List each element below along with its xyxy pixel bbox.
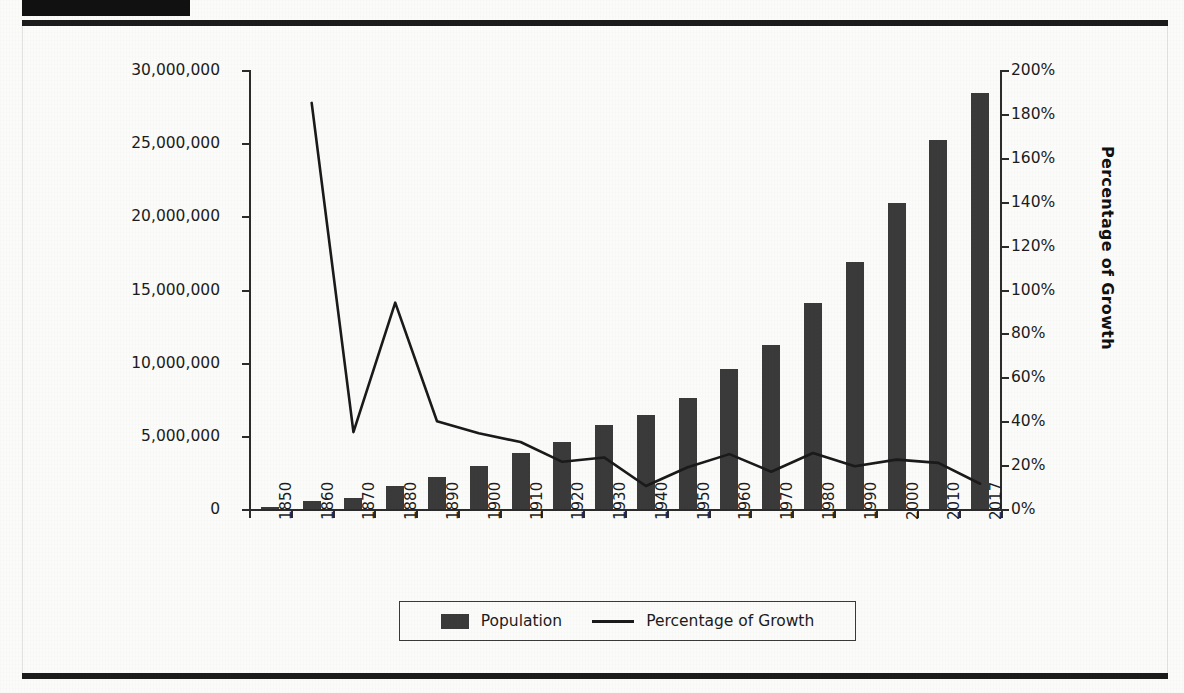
line-series-percentage-of-growth bbox=[249, 70, 1001, 509]
y-axis-left-tick bbox=[242, 363, 249, 365]
line-swatch-icon bbox=[592, 620, 634, 623]
y-axis-right-tick-label: 80% bbox=[1011, 324, 1045, 342]
y-axis-right-tick-label: 40% bbox=[1011, 412, 1045, 430]
y-axis-left-tick bbox=[242, 509, 249, 511]
y-axis-left-tick-label: 30,000,000 bbox=[131, 61, 220, 79]
rule-bottom bbox=[22, 673, 1168, 679]
y-axis-right-tick bbox=[1002, 202, 1009, 204]
y-axis-right-tick bbox=[1002, 246, 1009, 248]
y-axis-left-tick-label: 15,000,000 bbox=[131, 281, 220, 299]
y-axis-left-tick bbox=[242, 436, 249, 438]
y-axis-right-tick-label: 200% bbox=[1011, 61, 1055, 79]
y-axis-right-tick-label: 20% bbox=[1011, 456, 1045, 474]
y-axis-right-tick-label: 140% bbox=[1011, 193, 1055, 211]
legend-item-percentage-of-growth[interactable]: Percentage of Growth bbox=[592, 612, 814, 630]
y-axis-right-tick bbox=[1002, 114, 1009, 116]
y-axis-left-tick bbox=[242, 290, 249, 292]
y-axis-left-tick-label: 0 bbox=[210, 500, 220, 518]
y-axis-right-tick bbox=[1002, 333, 1009, 335]
legend-label-percentage-of-growth: Percentage of Growth bbox=[646, 612, 814, 630]
y-axis-right-tick-label: 60% bbox=[1011, 368, 1045, 386]
chart-legend: Population Percentage of Growth bbox=[399, 601, 856, 641]
page-title bbox=[200, 0, 960, 14]
legend-label-population: Population bbox=[481, 612, 562, 630]
y-axis-right-tick-label: 120% bbox=[1011, 237, 1055, 255]
chart-figure: 05,000,00010,000,00015,000,00020,000,000… bbox=[0, 26, 1184, 673]
y-axis-right-tick bbox=[1002, 377, 1009, 379]
y-axis-left-tick bbox=[242, 216, 249, 218]
y-axis-right-tick bbox=[1002, 465, 1009, 467]
bar-swatch-icon bbox=[441, 614, 469, 629]
y-axis-left-tick bbox=[242, 143, 249, 145]
y-axis-left-tick-label: 10,000,000 bbox=[131, 354, 220, 372]
y-axis-right-tick bbox=[1002, 158, 1009, 160]
y-axis-left-labels: 05,000,00010,000,00015,000,00020,000,000… bbox=[0, 70, 234, 510]
y-axis-right-tick bbox=[1002, 290, 1009, 292]
y-axis-right-tick bbox=[1002, 421, 1009, 423]
y-axis-left-tick-label: 5,000,000 bbox=[141, 427, 220, 445]
legend-item-population[interactable]: Population bbox=[441, 612, 562, 630]
header-block bbox=[22, 0, 190, 16]
growth-line-path bbox=[249, 70, 1001, 509]
y-axis-right-title: Percentage of Growth bbox=[1098, 146, 1117, 350]
y-axis-right-tick-label: 180% bbox=[1011, 105, 1055, 123]
y-axis-left-tick bbox=[242, 70, 249, 72]
y-axis-left-tick-label: 25,000,000 bbox=[131, 134, 220, 152]
x-axis-tick bbox=[249, 511, 251, 518]
y-axis-right-tick-label: 160% bbox=[1011, 149, 1055, 167]
y-axis-right-tick bbox=[1002, 70, 1009, 72]
y-axis-right-tick-label: 0% bbox=[1011, 500, 1036, 518]
y-axis-right-tick-label: 100% bbox=[1011, 281, 1055, 299]
y-axis-left-tick-label: 20,000,000 bbox=[131, 207, 220, 225]
